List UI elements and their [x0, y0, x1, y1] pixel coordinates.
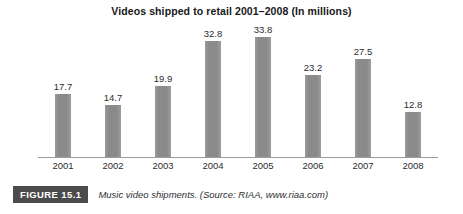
bar-item: 17.7: [38, 24, 88, 157]
bar-value-label: 14.7: [104, 92, 123, 103]
bar-value-label: 19.9: [154, 73, 173, 84]
x-axis-tick-label: 2006: [288, 160, 338, 171]
chart-title: Videos shipped to retail 2001–2008 (In m…: [0, 5, 463, 17]
bar-item: 32.8: [188, 24, 238, 157]
bar-item: 23.2: [288, 24, 338, 157]
figure-caption-text: Music video shipments. (Source: RIAA, ww…: [98, 189, 328, 200]
x-axis-tick-label: 2004: [188, 160, 238, 171]
x-axis-tick-labels: 2001 2002 2003 2004 2005 2006 2007 2008: [38, 160, 438, 171]
bar-value-label: 32.8: [204, 28, 223, 39]
x-axis-tick-label: 2008: [388, 160, 438, 171]
bar-value-label: 27.5: [354, 46, 373, 57]
x-axis-line: [38, 157, 438, 158]
bar-rect: [205, 41, 221, 157]
bar-item: 27.5: [338, 24, 388, 157]
bar-item: 12.8: [388, 24, 438, 157]
plot-area: 17.7 14.7 19.9 32.8 33.8 23.2: [38, 24, 438, 157]
x-axis-tick-label: 2002: [88, 160, 138, 171]
bar-rect: [305, 75, 321, 157]
x-axis-tick-label: 2007: [338, 160, 388, 171]
x-axis-tick-label: 2003: [138, 160, 188, 171]
bar-value-label: 23.2: [304, 62, 323, 73]
bar-item: 19.9: [138, 24, 188, 157]
bar-value-label: 12.8: [404, 99, 423, 110]
x-axis-tick-label: 2001: [38, 160, 88, 171]
bar-value-label: 17.7: [54, 81, 73, 92]
bar-item: 33.8: [238, 24, 288, 157]
bar-value-label: 33.8: [254, 24, 273, 35]
bar-rect: [55, 94, 71, 157]
x-axis-tick-label: 2005: [238, 160, 288, 171]
bar-rect: [355, 59, 371, 157]
figure-container: Videos shipped to retail 2001–2008 (In m…: [0, 0, 463, 214]
bar-rect: [255, 37, 271, 157]
figure-caption: FIGURE 15.1 Music video shipments. (Sour…: [13, 186, 328, 203]
bar-group: 17.7 14.7 19.9 32.8 33.8 23.2: [38, 24, 438, 157]
bar-rect: [155, 86, 171, 157]
bar-rect: [405, 112, 421, 157]
bar-rect: [105, 105, 121, 157]
figure-number-badge: FIGURE 15.1: [13, 186, 88, 203]
bar-item: 14.7: [88, 24, 138, 157]
